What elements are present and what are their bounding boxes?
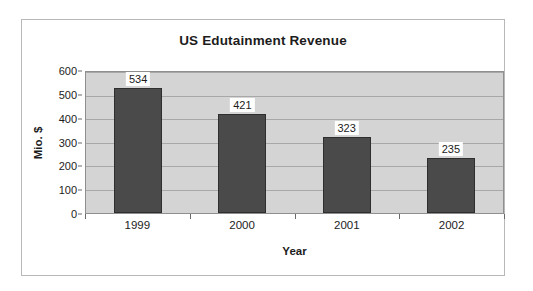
y-axis-tick-mark — [78, 118, 82, 119]
bars-layer: 534421323235 — [86, 72, 503, 213]
bar-value-label: 421 — [230, 98, 254, 112]
x-axis-tick-label: 2002 — [399, 219, 504, 232]
bar-value-label: 235 — [439, 142, 463, 156]
plot-area: 534421323235 — [85, 71, 504, 214]
bar[interactable] — [218, 114, 266, 213]
x-axis-tick-label: 2001 — [295, 219, 400, 232]
y-axis-tick-labels: 6005004003002001000 — [44, 71, 82, 214]
y-axis-tick-label: 500 — [59, 89, 77, 100]
y-axis-tick-label: 300 — [59, 137, 77, 148]
y-axis-tick-mark — [78, 166, 82, 167]
x-axis-tick-mark — [504, 214, 505, 219]
chart-frame: US Edutainment Revenue Mio. $ 6005004003… — [21, 19, 505, 276]
bar[interactable] — [114, 88, 162, 213]
chart-title: US Edutainment Revenue — [22, 33, 504, 48]
y-axis-tick-label: 200 — [59, 161, 77, 172]
bar-slot: 421 — [190, 72, 294, 213]
x-axis-tick-labels: 1999200020012002 — [85, 219, 504, 232]
x-axis-tick-label: 2000 — [190, 219, 295, 232]
bar-slot: 323 — [295, 72, 399, 213]
y-axis-title-label: Mio. $ — [32, 126, 44, 159]
y-axis-tick-mark — [78, 214, 82, 215]
bar-value-label: 323 — [334, 121, 358, 135]
bar[interactable] — [323, 137, 371, 213]
y-axis-tick-label: 0 — [71, 209, 77, 220]
y-axis-tick-mark — [78, 142, 82, 143]
y-axis-tick-mark — [78, 190, 82, 191]
x-axis-tick-label: 1999 — [85, 219, 190, 232]
y-axis-tick-label: 400 — [59, 113, 77, 124]
bar-value-label: 534 — [126, 72, 150, 86]
bar-slot: 235 — [399, 72, 503, 213]
y-axis-tick-mark — [78, 71, 82, 72]
x-axis-title: Year — [85, 245, 504, 257]
bar-slot: 534 — [86, 72, 190, 213]
y-axis-tick-mark — [78, 94, 82, 95]
y-axis-tick-label: 100 — [59, 185, 77, 196]
bar[interactable] — [427, 158, 475, 213]
y-axis-tick-label: 600 — [59, 66, 77, 77]
